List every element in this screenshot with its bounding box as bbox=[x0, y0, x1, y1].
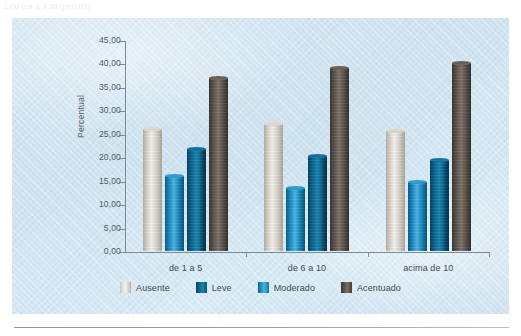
y-tick-label: 40,00 bbox=[99, 58, 121, 68]
bottom-rule bbox=[14, 327, 509, 328]
legend-item-ausente: Ausente bbox=[120, 282, 170, 293]
bar-leve bbox=[308, 156, 327, 251]
y-tick-label: 5,00 bbox=[104, 223, 121, 233]
bar-ausente bbox=[143, 129, 162, 251]
x-category-label: de 6 a 10 bbox=[288, 263, 326, 273]
bar-cap bbox=[408, 180, 427, 184]
bar-acentuado bbox=[209, 78, 228, 251]
legend-label: Moderado bbox=[274, 283, 315, 293]
x-tick-mark bbox=[368, 252, 369, 257]
bar-cap bbox=[187, 147, 206, 151]
bars-row bbox=[125, 40, 246, 251]
y-tick-label: 15,00 bbox=[99, 176, 121, 186]
bar-cap bbox=[308, 154, 327, 158]
bar-moderado bbox=[408, 182, 427, 251]
legend-swatch-icon bbox=[341, 282, 352, 293]
bar-cap bbox=[264, 122, 283, 126]
bar-leve bbox=[430, 160, 449, 251]
bars-row bbox=[246, 40, 367, 251]
bar-leve bbox=[187, 149, 206, 251]
y-tick-label: 45,00 bbox=[99, 35, 121, 45]
legend-swatch-icon bbox=[196, 282, 207, 293]
chart-panel: Percentual 0,005,0010,0015,0020,0025,003… bbox=[12, 18, 509, 314]
x-tick-mark bbox=[246, 252, 247, 257]
bar-acentuado bbox=[452, 63, 471, 251]
bar-cap bbox=[386, 129, 405, 133]
legend-item-leve: Leve bbox=[196, 282, 232, 293]
bar-ausente bbox=[264, 124, 283, 251]
bar-group bbox=[368, 40, 489, 251]
legend-item-acentuado: Acentuado bbox=[341, 282, 401, 293]
bar-cap bbox=[165, 174, 184, 178]
legend-swatch-icon bbox=[258, 282, 269, 293]
bar-cap bbox=[330, 66, 349, 70]
legend-item-moderado: Moderado bbox=[258, 282, 315, 293]
bar-group bbox=[246, 40, 367, 251]
y-tick-label: 10,00 bbox=[99, 199, 121, 209]
legend-label: Ausente bbox=[136, 283, 170, 293]
bar-moderado bbox=[286, 188, 305, 251]
x-category-label: de 1 a 5 bbox=[169, 263, 202, 273]
y-tick-label: 35,00 bbox=[99, 82, 121, 92]
plot-area: 0,005,0010,0015,0020,0025,0030,0035,0040… bbox=[125, 41, 489, 252]
y-tick-label: 20,00 bbox=[99, 152, 121, 162]
legend-label: Acentuado bbox=[357, 283, 401, 293]
legend-swatch-icon bbox=[120, 282, 131, 293]
y-tick-label: 0,00 bbox=[104, 246, 121, 256]
y-tick-label: 25,00 bbox=[99, 129, 121, 139]
bar-ausente bbox=[386, 131, 405, 251]
cut-off-header-text: 1,00 por 1 a 20 (p<0,05) bbox=[0, 0, 521, 13]
bar-moderado bbox=[165, 176, 184, 251]
legend-label: Leve bbox=[212, 283, 232, 293]
bars-row bbox=[368, 40, 489, 251]
bar-group bbox=[125, 40, 246, 251]
bar-cap bbox=[209, 76, 228, 80]
bar-acentuado bbox=[330, 68, 349, 251]
bar-cap bbox=[452, 61, 471, 65]
bar-cap bbox=[143, 127, 162, 131]
y-tick-label: 30,00 bbox=[99, 105, 121, 115]
x-axis-line bbox=[125, 252, 489, 253]
bar-cap bbox=[430, 158, 449, 162]
bar-cap bbox=[286, 186, 305, 190]
x-tick-mark bbox=[489, 252, 490, 257]
y-axis-title: Percentual bbox=[76, 95, 86, 138]
chart-legend: AusenteLeveModeradoAcentuado bbox=[12, 282, 509, 293]
x-category-label: acima de 10 bbox=[403, 263, 453, 273]
